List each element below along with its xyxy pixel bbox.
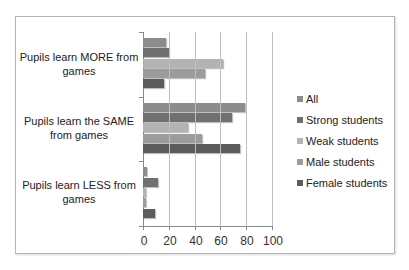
bar: [143, 134, 202, 143]
x-tick: [246, 226, 247, 230]
value-axis: [143, 226, 273, 227]
legend-swatch-icon: [297, 159, 303, 165]
legend-label: Weak students: [306, 135, 379, 147]
legend-label: Strong students: [306, 114, 383, 126]
legend-item: Strong students: [297, 109, 387, 130]
legend-label: All: [306, 93, 318, 105]
x-tick-label: 0: [141, 234, 148, 248]
bar: [143, 144, 240, 153]
legend-label: Female students: [306, 177, 387, 189]
category-label-same: Pupils learn the SAME from games: [18, 114, 140, 142]
x-tick-label: 100: [263, 234, 283, 248]
gridline: [169, 32, 170, 226]
gridline: [246, 32, 247, 226]
x-tick: [143, 226, 144, 230]
bar: [143, 123, 188, 132]
legend-item: Weak students: [297, 130, 387, 151]
legend-label: Male students: [306, 156, 374, 168]
x-tick: [220, 226, 221, 230]
bar: [143, 167, 147, 176]
legend-item: Male students: [297, 151, 387, 172]
x-tick-label: 40: [189, 234, 202, 248]
y-tick: [139, 226, 143, 227]
legend-item: Female students: [297, 172, 387, 193]
gridline: [195, 32, 196, 226]
bar: [143, 48, 169, 57]
legend-swatch-icon: [297, 138, 303, 144]
bar: [143, 198, 146, 207]
y-tick: [139, 32, 143, 33]
legend-swatch-icon: [297, 180, 303, 186]
y-tick: [139, 161, 143, 162]
y-tick: [139, 97, 143, 98]
legend: AllStrong studentsWeak studentsMale stud…: [297, 88, 387, 193]
bar: [143, 113, 232, 122]
bar: [143, 209, 155, 218]
x-tick-label: 60: [214, 234, 227, 248]
legend-swatch-icon: [297, 117, 303, 123]
x-tick: [195, 226, 196, 230]
category-label-more: Pupils learn MORE from games: [18, 50, 140, 78]
bar: [143, 59, 223, 68]
x-tick: [169, 226, 170, 230]
x-tick-label: 80: [240, 234, 253, 248]
x-tick-label: 20: [163, 234, 176, 248]
gridline: [220, 32, 221, 226]
gridline: [272, 32, 273, 226]
bar: [143, 79, 164, 88]
x-tick: [272, 226, 273, 230]
legend-item: All: [297, 88, 387, 109]
category-label-less: Pupils learn LESS from games: [18, 178, 140, 206]
bar: [143, 178, 158, 187]
bar: [143, 188, 146, 197]
bar: [143, 38, 166, 47]
bar: [143, 103, 245, 112]
legend-swatch-icon: [297, 96, 303, 102]
